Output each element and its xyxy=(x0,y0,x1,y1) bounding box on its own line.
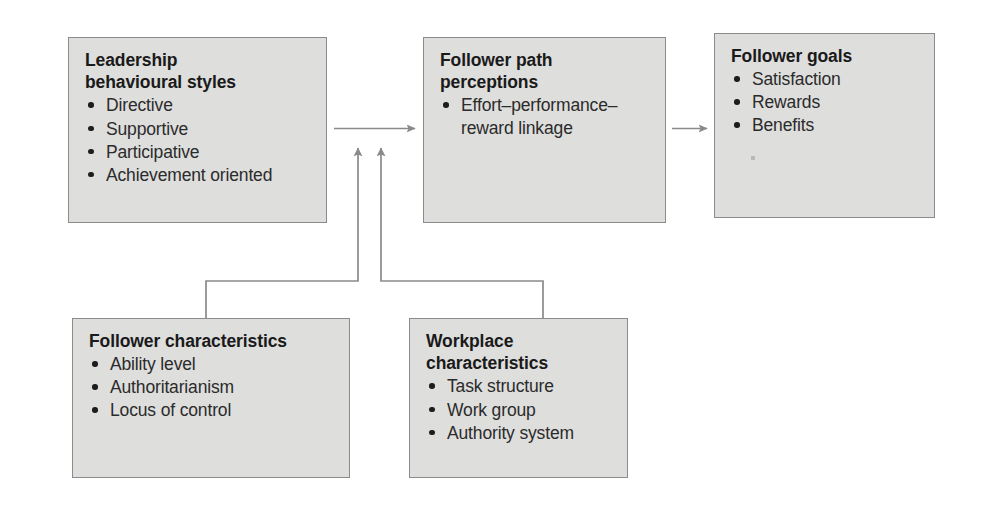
box-title: Follower characteristics xyxy=(89,330,335,352)
list-item-label: Satisfaction xyxy=(752,69,841,89)
diagram-canvas: Leadership behavioural styles Directive … xyxy=(0,0,984,517)
box-title: Leadership behavioural styles xyxy=(85,49,312,93)
list-item: Achievement oriented xyxy=(85,164,312,186)
list-item: Work group xyxy=(426,399,613,421)
bullet-list: Satisfaction Rewards Benefits xyxy=(731,68,920,136)
list-item: Directive xyxy=(85,94,312,116)
list-item: Task structure xyxy=(426,375,613,397)
box-title: Follower path perceptions xyxy=(440,49,651,93)
bullet-list: Task structure Work group Authority syst… xyxy=(426,375,613,443)
box-title: Follower goals xyxy=(731,45,920,67)
bullet-dot xyxy=(88,126,94,132)
list-item-label: Benefits xyxy=(752,115,814,135)
list-item: Locus of control xyxy=(89,399,335,421)
bullet-dot xyxy=(734,122,740,128)
bullet-dot xyxy=(429,383,435,389)
box-follower-characteristics: Follower characteristics Ability level A… xyxy=(72,318,350,478)
list-item-label: Task structure xyxy=(447,376,554,396)
box-follower-path-perceptions: Follower path perceptions Effort–perform… xyxy=(423,37,666,223)
list-item: Satisfaction xyxy=(731,68,920,90)
box-follower-goals: Follower goals Satisfaction Rewards Bene… xyxy=(714,33,935,218)
list-item: Participative xyxy=(85,141,312,163)
bullet-list: Effort–performance–reward linkage xyxy=(440,94,651,138)
bullet-dot xyxy=(92,361,98,367)
bullet-dot xyxy=(88,172,94,178)
box-title: Workplace characteristics xyxy=(426,330,613,374)
bullet-dot xyxy=(734,76,740,82)
bullet-dot xyxy=(429,430,435,436)
list-item-label: Authority system xyxy=(447,423,574,443)
list-item-label: Effort–performance–reward linkage xyxy=(461,95,617,137)
list-item-label: Work group xyxy=(447,400,536,420)
list-item-label: Directive xyxy=(106,95,173,115)
bullet-list: Directive Supportive Participative Achie… xyxy=(85,94,312,186)
list-item: Ability level xyxy=(89,353,335,375)
bullet-dot xyxy=(88,149,94,155)
list-item-label: Participative xyxy=(106,142,199,162)
list-item-label: Rewards xyxy=(752,92,820,112)
bullet-dot xyxy=(88,102,94,108)
bullet-list: Ability level Authoritarianism Locus of … xyxy=(89,353,335,421)
list-item: Authority system xyxy=(426,422,613,444)
bullet-dot xyxy=(92,407,98,413)
list-item: Benefits xyxy=(731,114,920,136)
list-item-label: Ability level xyxy=(110,354,196,374)
list-item: Effort–performance–reward linkage xyxy=(440,94,651,138)
list-item: Supportive xyxy=(85,118,312,140)
box-workplace-characteristics: Workplace characteristics Task structure… xyxy=(409,318,628,478)
print-speck xyxy=(751,156,755,160)
box-leadership-behavioural-styles: Leadership behavioural styles Directive … xyxy=(68,37,327,223)
bullet-dot xyxy=(92,384,98,390)
list-item: Authoritarianism xyxy=(89,376,335,398)
bullet-dot xyxy=(429,407,435,413)
list-item-label: Achievement oriented xyxy=(106,165,272,185)
list-item-label: Authoritarianism xyxy=(110,377,234,397)
bullet-dot xyxy=(443,102,449,108)
list-item-label: Supportive xyxy=(106,119,188,139)
list-item-label: Locus of control xyxy=(110,400,231,420)
bullet-dot xyxy=(734,99,740,105)
list-item: Rewards xyxy=(731,91,920,113)
